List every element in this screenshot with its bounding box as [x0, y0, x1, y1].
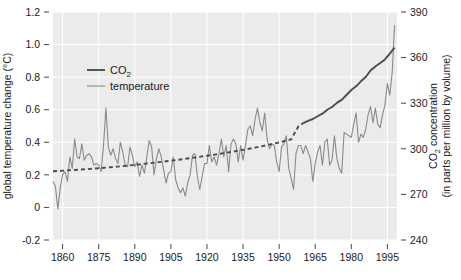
yaxis-right-tick-label: 240 [410, 234, 428, 246]
xaxis-tick-label: 1980 [340, 251, 364, 263]
yaxis-left-tick-label: 0.4 [25, 136, 40, 148]
xaxis-tick-label: 1920 [195, 251, 219, 263]
xaxis-tick-label: 1890 [123, 251, 147, 263]
climate-chart-canvas: 1860187518901905192019351950196519801995… [0, 0, 461, 280]
xaxis-tick-label: 1950 [267, 251, 291, 263]
yaxis-right-tick-label: 390 [410, 6, 428, 18]
xaxis-tick-label: 1995 [376, 251, 400, 263]
yaxis-left-tick-label: 0 [34, 201, 40, 213]
yaxis-right-tick-label: 270 [410, 188, 428, 200]
yaxis-left-tick-label: 1.0 [25, 38, 40, 50]
xaxis-tick-label: 1860 [51, 251, 75, 263]
xaxis-tick-label: 1875 [87, 251, 111, 263]
yaxis-left-tick-label: 0.6 [25, 103, 40, 115]
yaxis-right-title-line2: (in parts per million by volume) [440, 55, 452, 198]
yaxis-right-tick-label: 300 [410, 143, 428, 155]
yaxis-left-tick-label: 0.8 [25, 71, 40, 83]
yaxis-right-tick-label: 330 [410, 97, 428, 109]
yaxis-left-tick-label: -0.2 [22, 234, 40, 246]
yaxis-right-tick-label: 360 [410, 51, 428, 63]
xaxis-tick-label: 1905 [159, 251, 183, 263]
yaxis-left-tick-label: 0.2 [25, 169, 40, 181]
yaxis-left-tick-label: 1.2 [25, 6, 40, 18]
legend-label-temperature: temperature [110, 80, 169, 92]
xaxis-tick-label: 1935 [231, 251, 255, 263]
yaxis-left-title: global temperature change (°C) [1, 53, 13, 200]
chart-figure: 1860187518901905192019351950196519801995… [0, 0, 461, 280]
xaxis-tick-label: 1965 [304, 251, 328, 263]
